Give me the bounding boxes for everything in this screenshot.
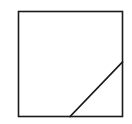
square-outline (19, 12, 123, 117)
diagram-canvas (0, 0, 132, 124)
corner-cut-line (70, 62, 123, 117)
